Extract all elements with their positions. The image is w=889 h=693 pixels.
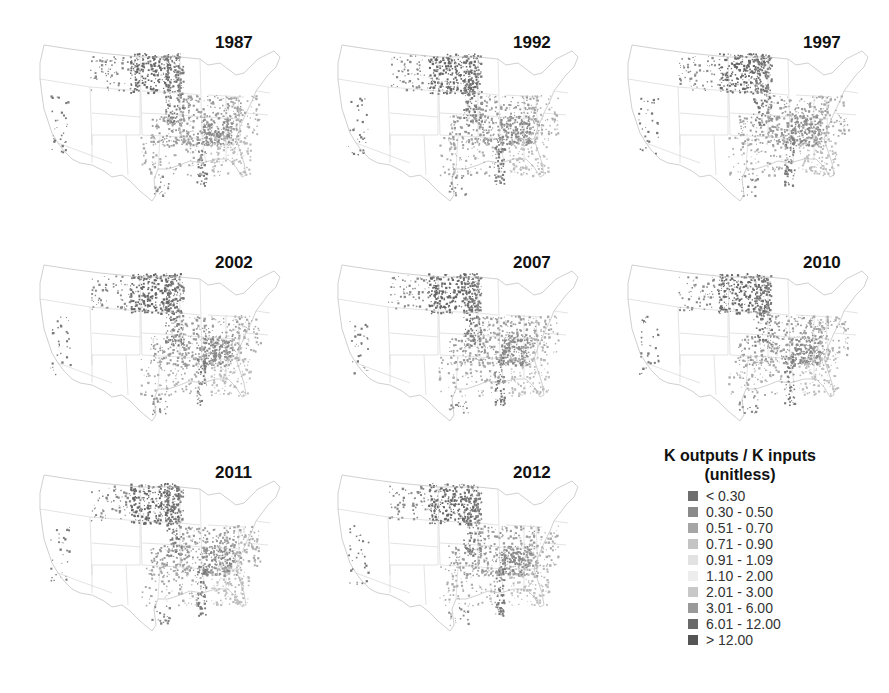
map-year-label: 2012	[513, 463, 551, 483]
legend-item: 0.91 - 1.09	[688, 552, 865, 568]
legend-item: 0.71 - 0.90	[688, 536, 865, 552]
map-panel-2007: 2007	[328, 255, 598, 440]
legend-label: > 12.00	[706, 632, 753, 648]
us-county-map	[30, 465, 290, 645]
map-panel-1997: 1997	[618, 35, 888, 220]
us-county-map	[618, 35, 878, 215]
legend-swatch	[688, 523, 698, 533]
us-county-map	[30, 255, 290, 435]
legend-swatch	[688, 619, 698, 629]
legend-swatch	[688, 587, 698, 597]
map-year-label: 2011	[215, 463, 252, 483]
legend-item: 0.51 - 0.70	[688, 520, 865, 536]
legend-label: 3.01 - 6.00	[706, 600, 773, 616]
legend-title-line2: (unitless)	[615, 465, 865, 484]
legend-label: 0.30 - 0.50	[706, 504, 773, 520]
legend-label: 0.51 - 0.70	[706, 520, 773, 536]
map-year-label: 1997	[803, 33, 841, 53]
legend-item: 6.01 - 12.00	[688, 616, 865, 632]
legend-label: 1.10 - 2.00	[706, 568, 773, 584]
map-panel-1987: 1987	[30, 35, 300, 220]
legend-swatch	[688, 555, 698, 565]
legend-label: < 0.30	[706, 488, 745, 504]
legend-swatch	[688, 603, 698, 613]
map-year-label: 2010	[803, 253, 841, 273]
legend-label: 0.91 - 1.09	[706, 552, 773, 568]
legend-items: < 0.300.30 - 0.500.51 - 0.700.71 - 0.900…	[688, 488, 865, 648]
map-panel-1992: 1992	[328, 35, 598, 220]
map-year-label: 2007	[513, 253, 551, 273]
legend-swatch	[688, 507, 698, 517]
us-county-map	[328, 465, 588, 645]
us-county-map	[30, 35, 290, 215]
map-panel-2002: 2002	[30, 255, 300, 440]
legend: K outputs / K inputs (unitless) < 0.300.…	[615, 446, 865, 648]
map-panel-2010: 2010	[618, 255, 888, 440]
legend-item: < 0.30	[688, 488, 865, 504]
legend-item: 3.01 - 6.00	[688, 600, 865, 616]
map-panel-2011: 2011	[30, 465, 300, 650]
map-year-label: 1987	[215, 33, 253, 53]
legend-swatch	[688, 491, 698, 501]
legend-swatch	[688, 571, 698, 581]
legend-title: K outputs / K inputs (unitless)	[615, 446, 865, 484]
legend-label: 0.71 - 0.90	[706, 536, 773, 552]
legend-item: 1.10 - 2.00	[688, 568, 865, 584]
legend-item: > 12.00	[688, 632, 865, 648]
legend-item: 2.01 - 3.00	[688, 584, 865, 600]
legend-label: 2.01 - 3.00	[706, 584, 773, 600]
legend-label: 6.01 - 12.00	[706, 616, 781, 632]
legend-swatch	[688, 539, 698, 549]
map-panel-2012: 2012	[328, 465, 598, 650]
us-county-map	[328, 255, 588, 435]
legend-swatch	[688, 635, 698, 645]
us-county-map	[328, 35, 588, 215]
map-year-label: 2002	[215, 253, 253, 273]
legend-title-line1: K outputs / K inputs	[615, 446, 865, 465]
us-county-map	[618, 255, 878, 435]
legend-item: 0.30 - 0.50	[688, 504, 865, 520]
map-year-label: 1992	[513, 33, 551, 53]
